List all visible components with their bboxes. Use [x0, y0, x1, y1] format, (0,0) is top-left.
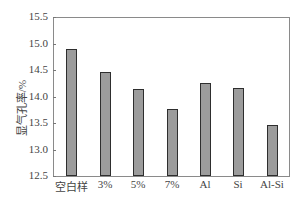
bar	[167, 109, 178, 176]
y-tick	[53, 44, 56, 45]
y-tick-label: 12.5	[18, 169, 48, 181]
y-tick	[53, 150, 56, 151]
x-tick-label: Al-Si	[250, 178, 294, 190]
bar	[267, 125, 278, 176]
bar	[133, 89, 144, 176]
y-tick-label: 15.0	[18, 37, 48, 49]
y-tick	[53, 176, 56, 177]
bar	[100, 72, 111, 176]
bar	[233, 88, 244, 176]
bar-chart: 12.513.013.514.014.515.015.5 空白样3%5%7%Al…	[0, 0, 307, 202]
bar	[200, 83, 211, 176]
y-tick	[53, 70, 56, 71]
y-tick	[53, 17, 56, 18]
y-tick	[53, 97, 56, 98]
bar	[66, 49, 77, 176]
y-axis-label: 显气孔率/%	[13, 68, 29, 148]
y-tick-label: 15.5	[18, 10, 48, 22]
y-tick	[53, 123, 56, 124]
